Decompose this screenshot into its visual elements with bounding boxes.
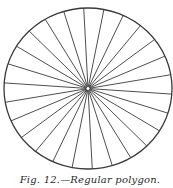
figure-caption: Fig. 12.—Regular polygon. xyxy=(0,174,173,185)
spoke-line xyxy=(21,89,88,138)
spoke-line xyxy=(88,39,155,88)
spoke-line xyxy=(88,89,131,158)
spoke-line xyxy=(72,89,88,168)
spoke-line xyxy=(88,89,172,95)
spoke-line xyxy=(88,9,104,88)
spoke-line xyxy=(4,83,88,89)
center-hub xyxy=(86,87,90,91)
spoke-line xyxy=(88,56,165,88)
spoke-line xyxy=(88,75,171,89)
regular-polygon-figure xyxy=(0,0,173,172)
spoke-line xyxy=(17,46,88,88)
spoke-line xyxy=(11,89,88,121)
spoke-line xyxy=(45,19,88,88)
spoke-line xyxy=(88,89,159,131)
spoke-line xyxy=(5,89,88,103)
